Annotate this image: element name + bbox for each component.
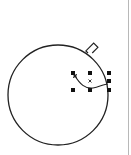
selection-handle-bottom-middle[interactable] [88,88,92,92]
selection-handle-top-right[interactable] [107,71,111,75]
drawing-surface[interactable] [0,0,128,155]
selection-handle-bottom-right[interactable] [107,88,111,92]
drawing-canvas[interactable] [0,0,128,155]
selection-handle-middle-right[interactable] [107,79,111,83]
selection-handle-top-left[interactable] [71,71,75,75]
ornament-cap[interactable] [86,43,98,55]
page-border-margin [129,0,131,155]
selection-center-marker-icon [89,80,92,83]
ornament-circle[interactable] [8,45,108,145]
selection-handle-top-middle[interactable] [88,71,92,75]
selection-handle-bottom-left[interactable] [71,88,75,92]
